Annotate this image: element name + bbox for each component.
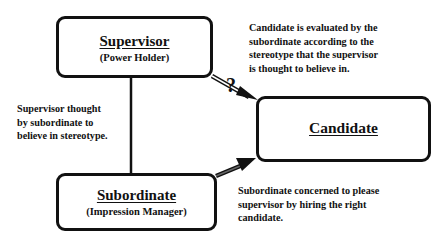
subordinate-box: Subordinate (Impression Manager) — [56, 173, 217, 231]
subordinate-title: Subordinate — [59, 187, 214, 204]
candidate-box: Candidate — [256, 96, 431, 162]
note-line: subordinate according to the — [249, 35, 419, 49]
supervisor-box: Supervisor (Power Holder) — [56, 16, 213, 78]
subordinate-to-candidate-arrow — [216, 158, 256, 176]
supervisor-subtitle: (Power Holder) — [59, 52, 210, 63]
subordinate-subtitle: (Impression Manager) — [59, 206, 214, 217]
note-line: Candidate is evaluated by the — [249, 21, 419, 35]
note-line: candidate. — [238, 211, 413, 225]
note-line: believe in stereotype. — [17, 129, 127, 143]
note-line: Supervisor thought — [17, 102, 127, 116]
evaluation-note: Candidate is evaluated by the subordinat… — [249, 21, 419, 75]
question-mark: ? — [226, 74, 236, 97]
concern-note: Subordinate concerned to please supervis… — [238, 184, 413, 225]
note-line: Subordinate concerned to please — [238, 184, 413, 198]
note-line: is thought to believe in. — [249, 62, 419, 76]
candidate-title: Candidate — [259, 119, 428, 137]
note-line: stereotype that the supervisor — [249, 48, 419, 62]
note-line: supervisor by hiring the right — [238, 198, 413, 212]
belief-note: Supervisor thought by subordinate to bel… — [17, 102, 127, 143]
note-line: by subordinate to — [17, 116, 127, 130]
supervisor-title: Supervisor — [59, 33, 210, 50]
